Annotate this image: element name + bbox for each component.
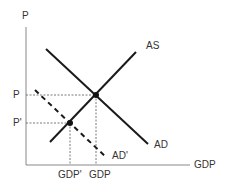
as-curve-label: AS: [146, 41, 159, 51]
price-label-new: P': [13, 118, 22, 128]
equilibrium-point-original: [93, 92, 99, 98]
price-label-original: P: [13, 90, 20, 100]
y-axis-label: P: [22, 11, 29, 21]
x-axis-label: GDP: [194, 160, 216, 170]
gdp-label-new: GDP': [58, 170, 82, 180]
ad-shifted-curve-label: AD': [112, 151, 128, 161]
gdp-label-original: GDP: [89, 170, 111, 180]
equilibrium-point-new: [67, 120, 73, 126]
ad-curve-label: AD: [154, 140, 168, 150]
